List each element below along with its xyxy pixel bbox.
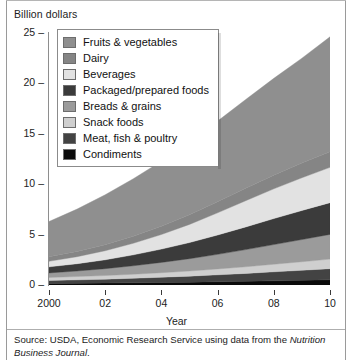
x-tick-label: 06 bbox=[212, 297, 224, 309]
legend-item-label: Snack foods bbox=[83, 117, 144, 128]
legend-swatch-icon bbox=[63, 117, 76, 128]
legend-item: Beverages bbox=[63, 66, 209, 82]
x-tick-label: 10 bbox=[324, 297, 336, 309]
x-tick-label: 04 bbox=[156, 297, 168, 309]
legend-item: Breads & grains bbox=[63, 98, 209, 114]
x-tick-mark bbox=[49, 290, 50, 295]
y-tick-label: 20– bbox=[10, 76, 44, 88]
legend-item: Condiments bbox=[63, 146, 209, 162]
x-tick-mark bbox=[105, 290, 106, 295]
y-tick-label: 0– bbox=[10, 278, 44, 290]
legend-swatch-icon bbox=[63, 37, 76, 48]
legend-swatch-icon bbox=[63, 53, 76, 64]
legend-swatch-icon bbox=[63, 101, 76, 112]
legend-swatch-icon bbox=[63, 133, 76, 144]
legend-swatch-icon bbox=[63, 69, 76, 80]
legend-swatch-icon bbox=[63, 85, 76, 96]
legend-item-label: Dairy bbox=[83, 53, 109, 64]
legend-item-label: Breads & grains bbox=[83, 101, 161, 112]
legend-item: Packaged/prepared foods bbox=[63, 82, 209, 98]
y-tick-label: 25– bbox=[10, 26, 44, 38]
x-tick-label: 2000 bbox=[37, 297, 60, 309]
x-tick-mark bbox=[161, 290, 162, 295]
x-tick-label: 08 bbox=[268, 297, 280, 309]
x-tick-mark bbox=[274, 290, 275, 295]
source-note: Source: USDA, Economic Research Service … bbox=[14, 334, 340, 359]
figure-frame-left bbox=[6, 0, 7, 360]
y-tick-label: 5– bbox=[10, 228, 44, 240]
x-axis-title: Year bbox=[0, 315, 353, 327]
x-tick-label: 02 bbox=[99, 297, 111, 309]
legend-item: Snack foods bbox=[63, 114, 209, 130]
source-suffix: . bbox=[87, 347, 90, 358]
figure-frame-top bbox=[6, 0, 346, 1]
y-tick-label: 15– bbox=[10, 127, 44, 139]
legend-item: Fruits & vegetables bbox=[63, 34, 209, 50]
legend-item-label: Fruits & vegetables bbox=[83, 37, 177, 48]
figure-frame-right bbox=[345, 0, 346, 360]
legend-item-label: Beverages bbox=[83, 69, 136, 80]
legend-item-label: Packaged/prepared foods bbox=[83, 85, 209, 96]
x-tick-mark bbox=[218, 290, 219, 295]
figure-container: Billion dollars 0–5–10–15–20–25– 2000020… bbox=[0, 0, 353, 360]
legend-item: Dairy bbox=[63, 50, 209, 66]
legend-item-label: Meat, fish & poultry bbox=[83, 133, 177, 144]
legend-swatch-icon bbox=[63, 149, 76, 160]
source-prefix: Source: USDA, Economic Research Service … bbox=[14, 334, 290, 345]
y-axis-title: Billion dollars bbox=[14, 8, 77, 20]
x-tick-mark bbox=[330, 290, 331, 295]
y-tick-label: 10– bbox=[10, 177, 44, 189]
legend-item: Meat, fish & poultry bbox=[63, 130, 209, 146]
footer-divider bbox=[7, 329, 345, 330]
legend-item-label: Condiments bbox=[83, 149, 142, 160]
chart-legend: Fruits & vegetablesDairyBeveragesPackage… bbox=[57, 29, 219, 167]
